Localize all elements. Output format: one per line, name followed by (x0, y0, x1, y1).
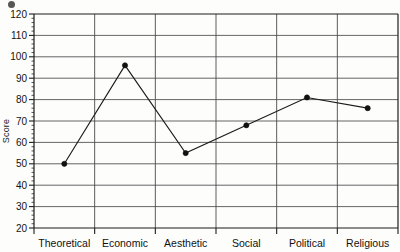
y-tick-label-group: 2030405060708090100110120 (10, 9, 27, 234)
data-point-marker (183, 151, 188, 156)
x-axis-category-label: Aesthetic (164, 237, 207, 249)
x-axis-category-label: Religious (346, 237, 389, 249)
y-axis-label-text: Score (1, 119, 11, 144)
x-axis-category-label: Economic (102, 237, 148, 249)
y-axis-tick-label: 30 (16, 201, 28, 212)
y-axis-tick-label: 100 (10, 51, 27, 62)
data-point-marker (244, 123, 249, 128)
data-point-marker (122, 63, 127, 68)
y-axis-tick-label: 80 (16, 94, 28, 105)
x-axis-category-label: Social (232, 237, 261, 249)
y-axis-label: Score (1, 119, 11, 144)
x-axis-category-label: Theoretical (38, 237, 90, 249)
scan-smudge-artifact (8, 1, 15, 8)
chart-container: Score 2030405060708090100110120 Theoreti… (0, 0, 400, 252)
line-chart: Score 2030405060708090100110120 Theoreti… (0, 0, 400, 252)
y-axis-tick-label: 70 (16, 116, 28, 127)
data-point-marker (62, 161, 67, 166)
y-axis-tick-label: 40 (16, 180, 28, 191)
y-axis-tick-label: 120 (10, 9, 27, 20)
y-axis-tick-label: 50 (16, 158, 28, 169)
x-axis-category-label: Political (289, 237, 325, 249)
y-major-tick-group (29, 14, 34, 228)
y-axis-tick-label: 60 (16, 137, 28, 148)
data-point-marker (304, 95, 309, 100)
y-axis-tick-label: 20 (16, 223, 28, 234)
x-category-tick-group (34, 228, 398, 234)
x-category-label-group: TheoreticalEconomicAestheticSocialPoliti… (38, 237, 389, 249)
data-point-marker (365, 106, 370, 111)
y-axis-tick-label: 90 (16, 73, 28, 84)
y-axis-tick-label: 110 (11, 30, 27, 41)
